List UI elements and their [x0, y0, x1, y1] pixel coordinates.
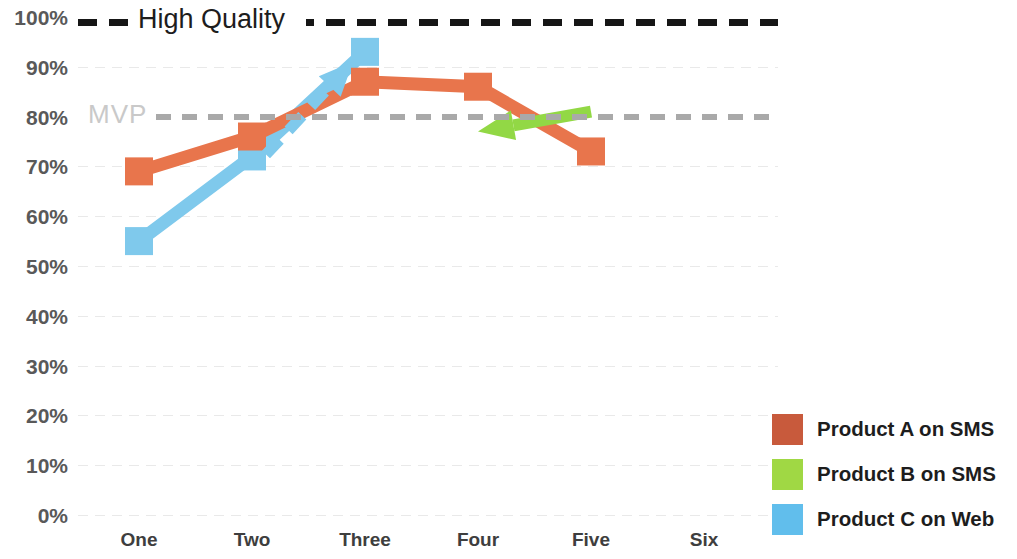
y-axis-tick-label: 50%	[0, 256, 68, 277]
y-axis-tick-label: 90%	[0, 56, 68, 77]
data-point-marker	[577, 137, 605, 165]
y-axis-tick-label: 0%	[0, 505, 68, 526]
data-point-marker	[351, 68, 379, 96]
y-axis-tick-label: 60%	[0, 206, 68, 227]
y-axis-tick-label: 40%	[0, 305, 68, 326]
legend-item[interactable]: Product B on SMS	[772, 457, 996, 491]
mvp-label: MVP	[88, 101, 147, 127]
y-axis-tick-label: 70%	[0, 156, 68, 177]
x-axis-tick-label: Four	[457, 530, 499, 549]
legend-swatch-icon	[772, 504, 803, 535]
plot-area: High Quality MVP	[78, 0, 778, 520]
data-point-marker	[351, 38, 379, 66]
legend-item-label: Product B on SMS	[817, 464, 996, 485]
y-axis-tick-label: 100%	[0, 7, 68, 28]
legend-item-label: Product A on SMS	[817, 419, 994, 440]
data-point-marker	[125, 157, 153, 185]
legend-swatch-icon	[772, 459, 803, 490]
mvp-threshold-line	[78, 114, 778, 120]
legend-item[interactable]: Product C on Web	[772, 502, 994, 536]
y-axis-tick-label: 20%	[0, 405, 68, 426]
data-point-marker	[125, 227, 153, 255]
y-axis-tick-label: 10%	[0, 455, 68, 476]
x-axis-tick-label: Two	[234, 530, 271, 549]
x-axis-tick-label: One	[121, 530, 158, 549]
x-axis: OneTwoThreeFourFiveSix	[78, 522, 778, 559]
legend-swatch-icon	[772, 414, 803, 445]
legend-item[interactable]: Product A on SMS	[772, 412, 994, 446]
series-graphics	[78, 0, 778, 520]
x-axis-tick-label: Five	[572, 530, 610, 549]
chart-canvas: High Quality MVP 100%90%80%70%60%50%40%3…	[0, 0, 1017, 559]
y-axis-tick-label: 30%	[0, 355, 68, 376]
y-axis: 100%90%80%70%60%50%40%30%20%10%0%	[0, 0, 78, 559]
data-point-marker	[464, 73, 492, 101]
y-axis-tick-label: 80%	[0, 106, 68, 127]
x-axis-tick-label: Three	[339, 530, 391, 549]
data-point-marker	[238, 123, 266, 151]
high-quality-label: High Quality	[138, 6, 285, 33]
legend-item-label: Product C on Web	[817, 509, 994, 530]
chart-legend: Product A on SMSProduct B on SMSProduct …	[772, 412, 1017, 559]
x-axis-tick-label: Six	[690, 530, 719, 549]
